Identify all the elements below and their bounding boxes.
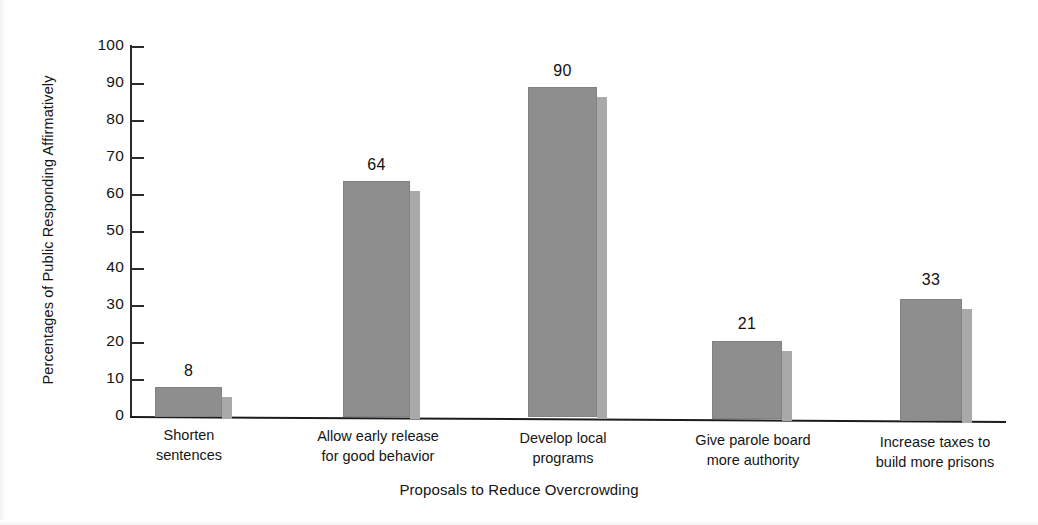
y-tick-label-30: 30: [78, 295, 124, 313]
y-tick-label-50: 50: [78, 221, 124, 239]
bar-3[interactable]: [712, 341, 782, 419]
bar-4[interactable]: [900, 299, 962, 421]
x-axis-line: [130, 416, 1006, 423]
x-category-label-3-line2: more authority: [663, 450, 843, 470]
bar-group-3: [712, 47, 807, 419]
y-tick-10: [131, 379, 144, 381]
y-tick-label-70: 70: [78, 147, 124, 165]
y-tick-50: [131, 231, 144, 233]
y-tick-label-10: 10: [78, 369, 124, 387]
bar-side-1: [410, 191, 420, 419]
x-category-label-1: Allow early release for good behavior: [280, 426, 476, 466]
bar-chart: Percentages of Public Responding Affirma…: [0, 0, 1038, 525]
y-tick-80: [131, 120, 144, 122]
x-category-label-2-line1: Develop local: [489, 428, 637, 448]
bar-value-0: 8: [155, 362, 222, 380]
bar-side-4: [962, 309, 972, 423]
x-category-label-4-line2: build more prisons: [840, 452, 1030, 472]
x-category-label-0-line2: sentences: [123, 445, 255, 465]
y-tick-label-40: 40: [78, 258, 124, 276]
y-tick-30: [131, 305, 144, 307]
bar-2[interactable]: [528, 87, 597, 417]
y-tick-40: [131, 268, 144, 270]
y-tick-label-60: 60: [78, 184, 124, 202]
bar-value-2: 90: [528, 62, 597, 80]
scan-edge-left: [0, 0, 6, 525]
y-tick-60: [131, 194, 144, 196]
y-tick-90: [131, 83, 144, 85]
bar-0[interactable]: [155, 387, 222, 417]
x-category-label-2: Develop local programs: [489, 428, 637, 468]
y-axis-title: Percentages of Public Responding Affirma…: [40, 20, 56, 440]
bar-group-4: [900, 47, 985, 421]
x-axis-title: Proposals to Reduce Overcrowding: [0, 481, 1038, 498]
x-category-label-4-line1: Increase taxes to: [840, 432, 1030, 452]
y-tick-label-20: 20: [78, 332, 124, 350]
bar-side-2: [597, 97, 607, 419]
y-tick-label-0: 0: [78, 406, 124, 424]
bar-group-1: [343, 47, 433, 417]
y-tick-100: [131, 46, 144, 48]
x-category-label-1-line2: for good behavior: [280, 446, 476, 466]
x-category-label-3-line1: Give parole board: [663, 430, 843, 450]
bar-value-1: 64: [343, 156, 410, 174]
x-category-label-4: Increase taxes to build more prisons: [840, 432, 1030, 472]
y-tick-label-90: 90: [78, 73, 124, 91]
bar-group-2: [528, 47, 623, 417]
bar-1[interactable]: [343, 181, 410, 417]
bar-value-3: 21: [712, 315, 782, 333]
x-category-label-0: Shorten sentences: [123, 425, 255, 465]
x-category-label-0-line1: Shorten: [123, 425, 255, 445]
bar-side-0: [222, 397, 232, 419]
bar-side-3: [782, 351, 792, 421]
y-tick-20: [131, 342, 144, 344]
y-tick-label-80: 80: [78, 110, 124, 128]
x-category-label-1-line1: Allow early release: [280, 426, 476, 446]
y-tick-label-100: 100: [78, 36, 124, 54]
scan-edge-bottom: [0, 520, 1038, 525]
bar-value-4: 33: [900, 271, 962, 289]
x-category-label-3: Give parole board more authority: [663, 430, 843, 470]
y-tick-70: [131, 157, 144, 159]
x-category-label-2-line2: programs: [489, 448, 637, 468]
